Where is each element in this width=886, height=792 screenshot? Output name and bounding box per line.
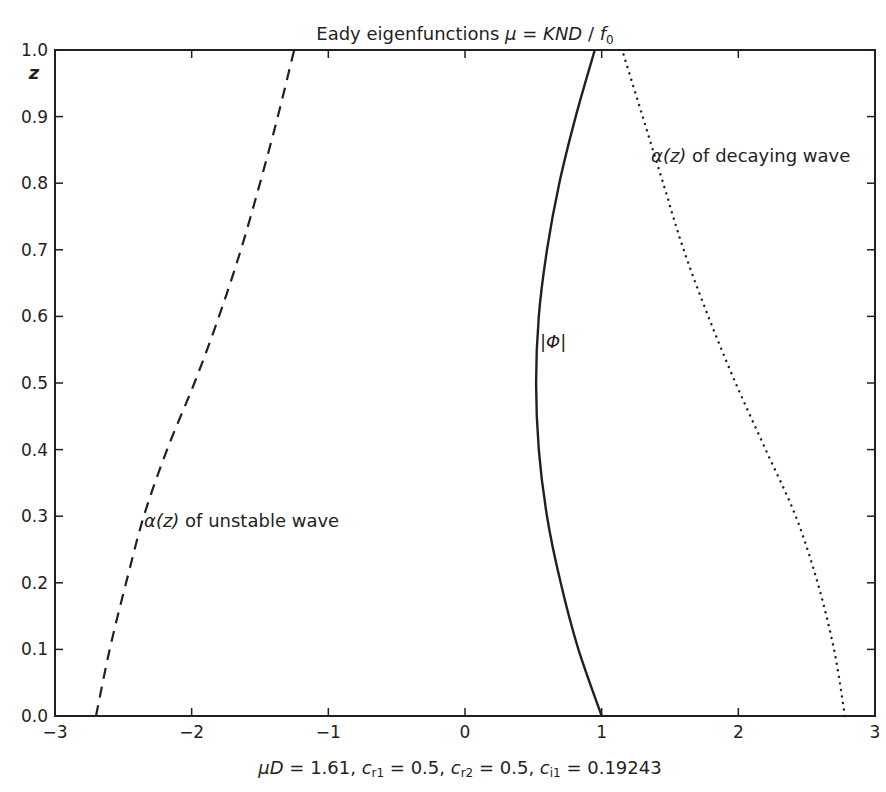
x-tick-label: −2	[179, 722, 204, 742]
y-tick-label: 0.6	[21, 306, 48, 326]
chart-title: Eady eigenfunctions μ = KND / f0	[316, 23, 613, 47]
y-tick-label: 0.8	[21, 173, 48, 193]
y-axis-ticks: 0.00.10.20.30.40.50.60.70.80.91.0	[21, 40, 875, 726]
x-tick-label: 2	[733, 722, 744, 742]
y-tick-label: 0.7	[21, 240, 48, 260]
y-tick-label: 0.2	[21, 573, 48, 593]
x-axis-label: μD = 1.61, cr1 = 0.5, cr2 = 0.5, ci1 = 0…	[257, 757, 661, 780]
x-tick-label: −1	[316, 722, 341, 742]
y-tick-label: 0.0	[21, 706, 48, 726]
y-axis-label: z	[28, 62, 40, 83]
y-tick-label: 0.3	[21, 506, 48, 526]
chart-canvas: Eady eigenfunctions μ = KND / f0 −3−2−10…	[0, 0, 886, 792]
y-tick-label: 0.5	[21, 373, 48, 393]
annotation-unstable-wave: α(z) of unstable wave	[144, 510, 339, 531]
y-tick-label: 0.9	[21, 107, 48, 127]
annotation-decaying-wave: α(z) of decaying wave	[651, 145, 850, 166]
series-phi-magnitude	[536, 50, 602, 716]
y-tick-label: 0.1	[21, 639, 48, 659]
y-tick-label: 1.0	[21, 40, 48, 60]
series-unstable-alpha	[96, 50, 294, 716]
x-tick-label: 0	[460, 722, 471, 742]
x-tick-label: 3	[870, 722, 881, 742]
annotation-phi: |Φ|	[540, 331, 566, 352]
y-tick-label: 0.4	[21, 440, 48, 460]
x-tick-label: 1	[596, 722, 607, 742]
